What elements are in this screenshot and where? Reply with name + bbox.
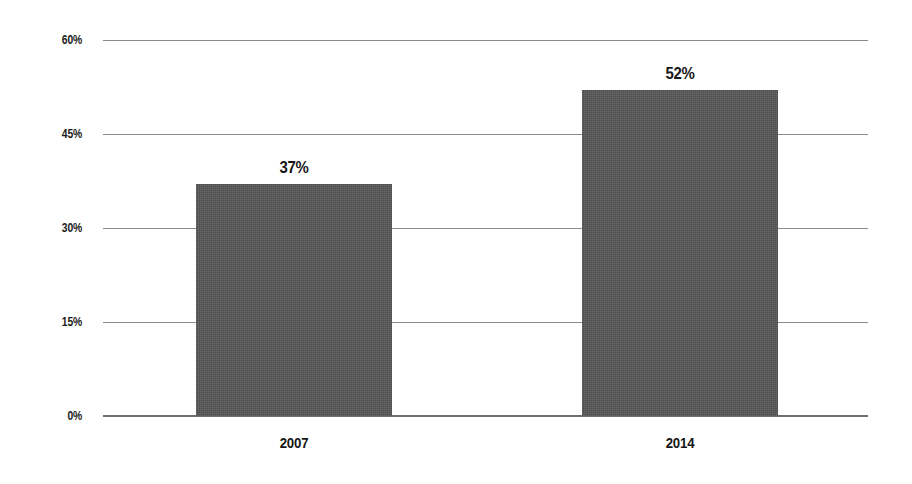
y-axis-tick-2: 30% — [22, 221, 82, 235]
value-label-2007: 37% — [208, 158, 380, 178]
y-axis-tick-3: 45% — [22, 127, 82, 141]
y-axis-tick-4: 60% — [22, 33, 82, 47]
bar-2014[interactable] — [582, 90, 778, 416]
category-label-2007: 2007 — [208, 434, 380, 451]
value-label-2014: 52% — [594, 64, 766, 84]
bar-chart: 0% 15% 30% 45% 60% 37% 52% 2007 2014 — [0, 0, 912, 484]
gridline-60 — [103, 40, 868, 41]
plot-area — [103, 40, 868, 416]
y-axis-tick-labels: 0% 15% 30% 45% 60% — [0, 40, 82, 416]
bar-2007[interactable] — [196, 184, 392, 416]
y-axis-tick-0: 0% — [22, 409, 82, 423]
y-axis-tick-1: 15% — [22, 315, 82, 329]
category-label-2014: 2014 — [594, 434, 766, 451]
